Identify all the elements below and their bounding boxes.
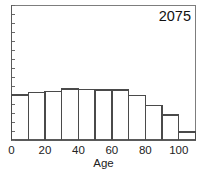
chart-title: 2075 (159, 8, 191, 24)
chart-canvas: 020406080100 Age 2075 (0, 0, 205, 171)
x-tick-label: 100 (169, 144, 188, 156)
x-axis-title: Age (93, 157, 113, 169)
x-tick-label: 40 (72, 144, 85, 156)
x-tick-label: 0 (8, 144, 14, 156)
x-tick-label: 80 (139, 144, 152, 156)
x-tick-label: 60 (105, 144, 118, 156)
x-tick-label: 20 (39, 144, 52, 156)
population-age-histogram: 020406080100 Age 2075 (0, 0, 205, 171)
